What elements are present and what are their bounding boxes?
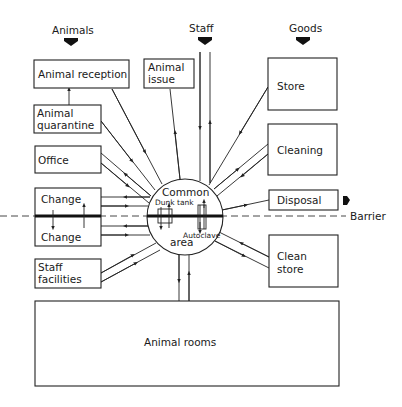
box-clean-store: Clean store <box>269 235 338 287</box>
input-staff-label: Staff <box>189 22 214 34</box>
block-arrow-down-icon <box>64 38 78 46</box>
box-animal-issue: Animal issue <box>144 59 194 88</box>
input-goods: Goods <box>289 22 322 45</box>
box-animal-quarantine-label-1: Animal <box>37 107 73 119</box>
block-arrow-down-icon <box>296 37 310 45</box>
barrier-label: Barrier <box>350 210 386 222</box>
box-staff-facilities-label-1: Staff <box>38 261 63 273</box>
box-animal-reception: Animal reception <box>34 60 129 88</box>
box-staff-facilities: Staff facilities <box>35 259 101 288</box>
box-office-label: Office <box>38 154 69 166</box>
box-animal-rooms-label: Animal rooms <box>144 336 216 348</box>
box-animal-issue-label-2: issue <box>148 73 175 85</box>
box-animal-quarantine-label-2: quarantine <box>37 119 94 131</box>
box-store: Store <box>268 58 337 110</box>
box-store-label: Store <box>277 80 305 92</box>
block-arrow-right-icon <box>343 196 350 205</box>
box-animal-quarantine: Animal quarantine <box>34 105 101 133</box>
dunk-tank-label: Dunk tank <box>155 198 194 207</box>
box-change-lower-label: Change <box>41 231 81 243</box>
box-clean-store-label-2: store <box>277 263 304 275</box>
box-clean-store-label-1: Clean <box>277 250 307 262</box>
input-goods-label: Goods <box>289 22 322 34</box>
facility-flow-diagram: Animals Staff Goods <box>0 0 402 407</box>
box-office: Office <box>35 146 101 173</box>
box-animal-rooms: Animal rooms <box>35 301 339 386</box>
box-change: Change Change <box>35 188 101 246</box>
block-arrow-down-icon <box>198 37 212 45</box>
input-staff: Staff <box>189 22 214 45</box>
input-animals: Animals <box>52 24 94 46</box>
box-cleaning: Cleaning <box>268 124 337 175</box>
box-change-upper-label: Change <box>41 193 81 205</box>
input-animals-label: Animals <box>52 24 94 36</box>
box-disposal-label: Disposal <box>277 194 321 206</box>
hub-label-common: Common <box>162 186 209 198</box>
box-cleaning-label: Cleaning <box>277 144 323 156</box>
box-disposal: Disposal <box>269 190 350 210</box>
box-staff-facilities-label-2: facilities <box>38 273 82 285</box>
common-area-hub: Common area Dunk tank Autoclave <box>147 179 223 255</box>
box-animal-issue-label-1: Animal <box>148 61 184 73</box>
autoclave-label: Autoclave <box>183 231 221 240</box>
box-animal-reception-label: Animal reception <box>38 68 127 80</box>
